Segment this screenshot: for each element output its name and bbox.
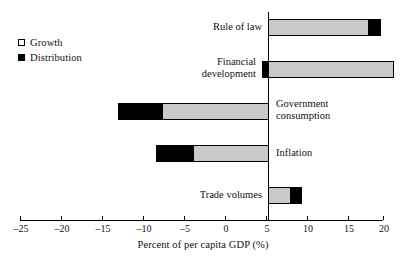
bar-segment-growth bbox=[268, 19, 369, 36]
x-axis-tick-label: –25 bbox=[6, 223, 36, 234]
bar-segment-growth bbox=[162, 103, 269, 120]
bar-financial-development bbox=[262, 61, 398, 78]
x-axis-tick bbox=[348, 216, 349, 220]
x-axis-tick-label: –20 bbox=[47, 223, 77, 234]
bar-segment-growth bbox=[268, 187, 291, 204]
category-label-text-line1: Financial bbox=[217, 56, 256, 67]
category-label-trade-volumes: Trade volumes bbox=[158, 189, 262, 201]
x-axis-tick-label: –5 bbox=[170, 223, 200, 234]
x-axis-tick bbox=[383, 216, 384, 220]
bar-segment-growth bbox=[268, 61, 394, 78]
bar-inflation bbox=[156, 145, 269, 162]
category-label-inflation: Inflation bbox=[276, 147, 366, 159]
stacked-bar-chart: Growth Distribution Rule of law Financia… bbox=[0, 0, 406, 262]
category-label-text-line2: consumption bbox=[276, 110, 330, 121]
category-label-government-consumption: Government consumption bbox=[276, 98, 396, 121]
x-axis-tick-label: 10 bbox=[293, 223, 323, 234]
x-axis-tick bbox=[102, 216, 103, 220]
bar-segment-growth bbox=[193, 145, 269, 162]
x-axis-tick-label: 15 bbox=[334, 223, 364, 234]
category-label-text: Rule of law bbox=[213, 21, 262, 32]
x-axis-tick bbox=[61, 216, 62, 220]
category-label-text-line1: Government bbox=[276, 98, 329, 109]
x-axis-tick-label: 20 bbox=[369, 223, 399, 234]
bar-segment-distribution bbox=[290, 187, 302, 204]
x-axis-tick-label: –15 bbox=[88, 223, 118, 234]
bar-segment-distribution bbox=[156, 145, 194, 162]
bar-segment-distribution bbox=[118, 103, 163, 120]
plot-area: Rule of law Financial development Govern… bbox=[0, 0, 406, 262]
x-axis-tick bbox=[143, 216, 144, 220]
bar-rule-of-law bbox=[268, 19, 383, 36]
category-label-text: Trade volumes bbox=[200, 189, 262, 200]
x-axis-tick bbox=[307, 216, 308, 220]
x-axis-tick bbox=[225, 216, 226, 220]
category-label-rule-of-law: Rule of law bbox=[160, 21, 262, 33]
x-axis-line bbox=[20, 220, 383, 221]
bar-segment-distribution bbox=[369, 19, 381, 36]
category-label-financial-development: Financial development bbox=[152, 56, 256, 79]
x-axis-tick bbox=[184, 216, 185, 220]
x-axis-tick-label: –10 bbox=[129, 223, 159, 234]
x-axis-tick bbox=[266, 216, 267, 220]
bar-government-consumption bbox=[118, 103, 269, 120]
x-axis-tick bbox=[20, 216, 21, 220]
category-label-text-line2: development bbox=[202, 68, 256, 79]
x-axis-title: Percent of per capita GDP (%) bbox=[0, 239, 406, 250]
x-axis-tick-label: 0 bbox=[211, 223, 241, 234]
bar-trade-volumes bbox=[268, 187, 303, 204]
category-label-text: Inflation bbox=[276, 147, 312, 158]
x-axis-tick-label: 5 bbox=[252, 223, 282, 234]
